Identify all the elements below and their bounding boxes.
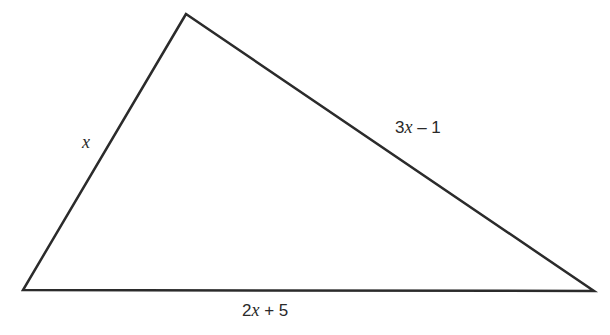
label-right-const: – 1 [412,118,440,137]
triangle-diagram [0,0,610,335]
side-label-bottom: 2x + 5 [242,300,288,321]
label-left-variable: x [82,132,90,152]
side-label-right: 3x – 1 [395,117,441,138]
label-bottom-const: + 5 [259,301,288,320]
triangle-shape [23,14,594,291]
side-label-left: x [82,132,90,153]
